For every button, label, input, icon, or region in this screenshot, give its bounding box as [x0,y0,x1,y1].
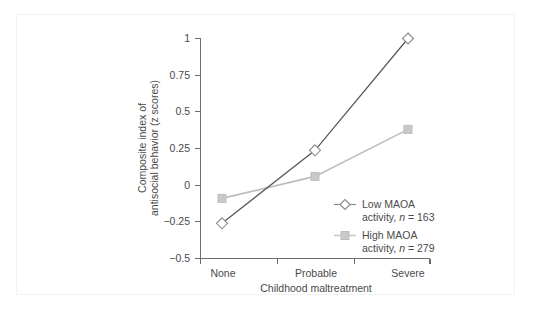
legend-high-maoa-line2: activity, n = 279 [362,242,435,254]
legend-low-maoa-marker [340,200,350,210]
legend-low-maoa-line1: Low MAOA [362,198,415,210]
y-tick-label-05: 0.5 [175,105,190,117]
y-tick-label-neg05: −0.5 [169,252,190,264]
x-tick-label-severe: Severe [391,267,424,279]
x-axis-title: Childhood maltreatment [260,282,372,294]
y-tick-marks [195,39,201,259]
x-tick-marks [201,259,431,265]
series-line-low-maoa [222,39,408,224]
y-tick-label-075: 0.75 [170,69,191,81]
legend-low-maoa-line2-suffix: = 163 [405,211,435,223]
x-tick-label-probable: Probable [295,267,337,279]
legend-high-maoa-line1: High MAOA [362,229,417,241]
legend-high-maoa-line2-prefix: activity, [362,242,399,254]
y-axis-title-line1: Composite index of [136,103,148,193]
legend-item-high-maoa: High MAOA activity, n = 279 [334,229,435,254]
legend-high-maoa-marker [341,232,349,240]
y-tick-label-0: 0 [184,179,190,191]
y-tick-label-1: 1 [184,32,190,44]
y-tick-label-025: 0.25 [170,142,191,154]
x-tick-label-none: None [210,267,235,279]
legend-low-maoa-line2-prefix: activity, [362,211,399,223]
series-markers-high-maoa [218,125,412,202]
series-line-high-maoa [222,129,408,198]
figure-root: 1 0.75 0.5 0.25 0 −0.25 −0.5 None Probab… [0,0,557,322]
legend-item-low-maoa: Low MAOA activity, n = 163 [334,198,435,223]
legend-high-maoa-line2-suffix: = 279 [405,242,435,254]
legend-low-maoa-line2: activity, n = 163 [362,211,435,223]
y-tick-label-neg025: −0.25 [163,215,190,227]
line-chart: 1 0.75 0.5 0.25 0 −0.25 −0.5 None Probab… [0,0,557,322]
y-axis-title-line2: antisocial behavior (z scores) [148,80,160,216]
